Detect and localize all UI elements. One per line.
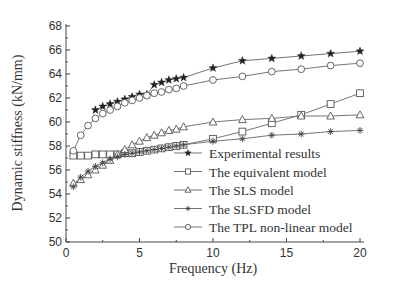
chart-canvas: 5052545658606264666805101520 Experimenta… <box>0 0 405 294</box>
asterisk-marker-icon <box>107 156 114 163</box>
triangle-marker-icon <box>136 137 144 144</box>
asterisk-marker-icon <box>85 168 92 175</box>
square-marker-icon <box>99 151 106 158</box>
square-marker-icon <box>92 151 99 158</box>
circle-marker-icon <box>92 115 99 122</box>
star-marker-icon <box>209 64 217 72</box>
legend-label: Experimental results <box>209 146 320 161</box>
asterisk-marker-icon <box>129 150 136 157</box>
y-tick-label: 56 <box>49 163 63 177</box>
star-marker-icon <box>165 76 173 84</box>
asterisk-marker-icon <box>121 151 128 158</box>
legend-item: The equivalent model <box>174 165 327 180</box>
asterisk-marker-icon <box>298 131 305 138</box>
y-tick-label: 68 <box>49 19 63 33</box>
asterisk-marker-icon <box>166 144 173 151</box>
circle-marker-icon <box>298 66 305 73</box>
y-tick-label: 66 <box>49 43 63 57</box>
y-axis-title: Dynamic stiffness (kN/mm) <box>10 54 26 211</box>
circle-marker-icon <box>239 73 246 80</box>
circle-marker-icon <box>107 107 114 114</box>
square-marker-icon <box>357 90 364 97</box>
circle-marker-icon <box>70 147 77 154</box>
square-marker-icon <box>85 152 92 159</box>
legend-item: The SLS model <box>174 183 294 198</box>
circle-marker-icon <box>158 89 165 96</box>
circle-marker-icon <box>129 97 136 104</box>
legend-label: The SLS model <box>209 183 294 198</box>
star-marker-icon <box>99 102 107 110</box>
circle-marker-icon <box>85 122 92 129</box>
x-tick-label: 15 <box>280 246 294 260</box>
asterisk-marker-icon <box>185 206 190 211</box>
square-marker-icon <box>239 128 246 135</box>
star-marker-icon <box>172 75 180 83</box>
star-marker-icon <box>158 78 166 86</box>
star-marker-icon <box>268 54 276 62</box>
star-marker-icon <box>356 47 364 55</box>
circle-marker-icon <box>121 99 128 106</box>
y-tick-label: 62 <box>49 91 63 105</box>
circle-marker-icon <box>114 103 121 110</box>
circle-marker-icon <box>268 68 275 75</box>
star-marker-icon <box>150 81 158 89</box>
asterisk-marker-icon <box>158 145 165 152</box>
circle-marker-icon <box>357 60 364 67</box>
circle-marker-icon <box>166 86 173 93</box>
legend-item: Experimental results <box>174 146 320 161</box>
asterisk-marker-icon <box>70 183 77 190</box>
star-marker-icon <box>91 106 99 114</box>
asterisk-marker-icon <box>151 146 158 153</box>
circle-marker-icon <box>185 224 190 229</box>
x-tick-label: 0 <box>63 246 70 260</box>
circle-marker-icon <box>77 132 84 139</box>
x-tick-label: 10 <box>206 246 220 260</box>
circle-marker-icon <box>180 83 187 90</box>
asterisk-marker-icon <box>99 159 106 166</box>
asterisk-marker-icon <box>173 143 180 150</box>
triangle-marker-icon <box>356 111 364 118</box>
y-tick-label: 60 <box>49 115 63 129</box>
legend-label: The SLSFD model <box>209 202 311 217</box>
asterisk-marker-icon <box>92 163 99 170</box>
circle-marker-icon <box>210 77 217 84</box>
circle-marker-icon <box>136 95 143 102</box>
square-marker-icon <box>185 169 190 174</box>
y-tick-label: 54 <box>49 187 63 201</box>
y-tick-label: 64 <box>49 67 63 81</box>
legend-label: The TPL non-linear model <box>209 220 353 235</box>
asterisk-marker-icon <box>327 128 334 135</box>
x-axis-title: Frequency (Hz) <box>169 261 258 277</box>
asterisk-marker-icon <box>357 127 364 134</box>
triangle-marker-icon <box>128 141 136 148</box>
star-marker-icon <box>327 49 335 57</box>
star-marker-icon <box>297 52 305 60</box>
y-tick-label: 50 <box>49 235 63 249</box>
square-marker-icon <box>327 101 334 108</box>
circle-marker-icon <box>173 85 180 92</box>
circle-marker-icon <box>327 62 334 69</box>
star-marker-icon <box>180 73 188 81</box>
triangle-marker-icon <box>185 187 191 192</box>
asterisk-marker-icon <box>210 138 217 145</box>
asterisk-marker-icon <box>136 149 143 156</box>
asterisk-marker-icon <box>77 174 84 181</box>
legend-item: The TPL non-linear model <box>174 220 353 235</box>
circle-marker-icon <box>99 110 106 117</box>
asterisk-marker-icon <box>268 132 275 139</box>
star-marker-icon <box>185 150 191 156</box>
legend-label: The equivalent model <box>209 165 327 180</box>
legend: Experimental resultsThe equivalent model… <box>174 146 353 235</box>
x-tick-label: 20 <box>353 246 367 260</box>
asterisk-marker-icon <box>114 153 121 160</box>
star-marker-icon <box>238 57 246 65</box>
circle-marker-icon <box>151 90 158 97</box>
legend-item: The SLSFD model <box>174 202 311 217</box>
x-tick-label: 5 <box>136 246 143 260</box>
y-tick-label: 52 <box>49 211 63 225</box>
circle-marker-icon <box>143 92 150 99</box>
square-marker-icon <box>77 152 84 159</box>
asterisk-marker-icon <box>180 141 187 148</box>
asterisk-marker-icon <box>239 135 246 142</box>
y-tick-label: 58 <box>49 139 63 153</box>
